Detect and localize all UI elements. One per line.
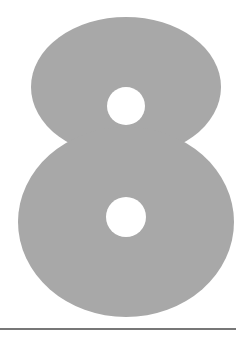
digit-eight-figure: Digit eight — [0, 0, 250, 337]
upper-counter-hole — [107, 87, 145, 125]
digit-eight-graphic — [0, 0, 250, 337]
digit-eight-glyph — [18, 17, 234, 317]
lower-counter-hole — [106, 197, 146, 237]
